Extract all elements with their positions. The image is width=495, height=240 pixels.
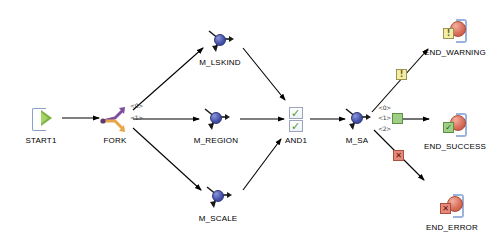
- node-label: AND1: [285, 136, 307, 145]
- node-label: M_SA: [346, 136, 369, 145]
- end-success-icon: ✓: [438, 111, 472, 141]
- node-label: START1: [25, 136, 56, 145]
- error-badge: ✕: [440, 203, 451, 214]
- end-error-icon: ✕: [435, 192, 469, 222]
- node-label: END_ERROR: [426, 223, 478, 232]
- edge-label-sa-1: <1>: [378, 114, 391, 121]
- node-label: END_WARNING: [424, 48, 486, 57]
- node-end-warning[interactable]: ! END_WARNING: [410, 17, 495, 57]
- node-label: M_REGION: [194, 136, 238, 145]
- node-m-lskind[interactable]: M_LSKIND: [175, 27, 265, 67]
- mapping-sphere-icon: [203, 27, 237, 57]
- success-badge: ✓: [443, 122, 454, 133]
- edge-label-sa-2: <2>: [378, 125, 391, 132]
- node-label: M_SCALE: [199, 214, 238, 223]
- node-label: END_SUCCESS: [424, 142, 486, 151]
- warning-badge: !: [443, 28, 454, 39]
- edge-label-sa-0: <0>: [378, 104, 391, 111]
- node-m-scale[interactable]: M_SCALE: [173, 183, 263, 223]
- node-end-error[interactable]: ✕ END_ERROR: [407, 192, 495, 232]
- and-checkbox-icon: ✓ ✓: [279, 105, 313, 135]
- start-gate-icon: [24, 105, 58, 135]
- edge-label-fork-1: <1>: [130, 114, 143, 121]
- edge-label-fork-0: <0>: [130, 102, 143, 109]
- success-marker[interactable]: [392, 113, 403, 124]
- diagram-canvas: START1 FORK: [0, 0, 495, 240]
- mapping-sphere-icon: [340, 105, 374, 135]
- warning-marker[interactable]: !: [396, 69, 407, 80]
- fork-arrows-icon: [98, 105, 132, 135]
- node-label: FORK: [103, 136, 126, 145]
- mapping-sphere-icon: [201, 183, 235, 213]
- node-fork[interactable]: FORK: [70, 105, 160, 145]
- mapping-sphere-icon: [199, 105, 233, 135]
- node-m-region[interactable]: M_REGION: [171, 105, 261, 145]
- error-marker[interactable]: ✕: [393, 150, 404, 161]
- node-label: M_LSKIND: [199, 58, 241, 67]
- node-end-success[interactable]: ✓ END_SUCCESS: [410, 111, 495, 151]
- end-warning-icon: !: [438, 17, 472, 47]
- edge-sa-warning: [372, 49, 428, 112]
